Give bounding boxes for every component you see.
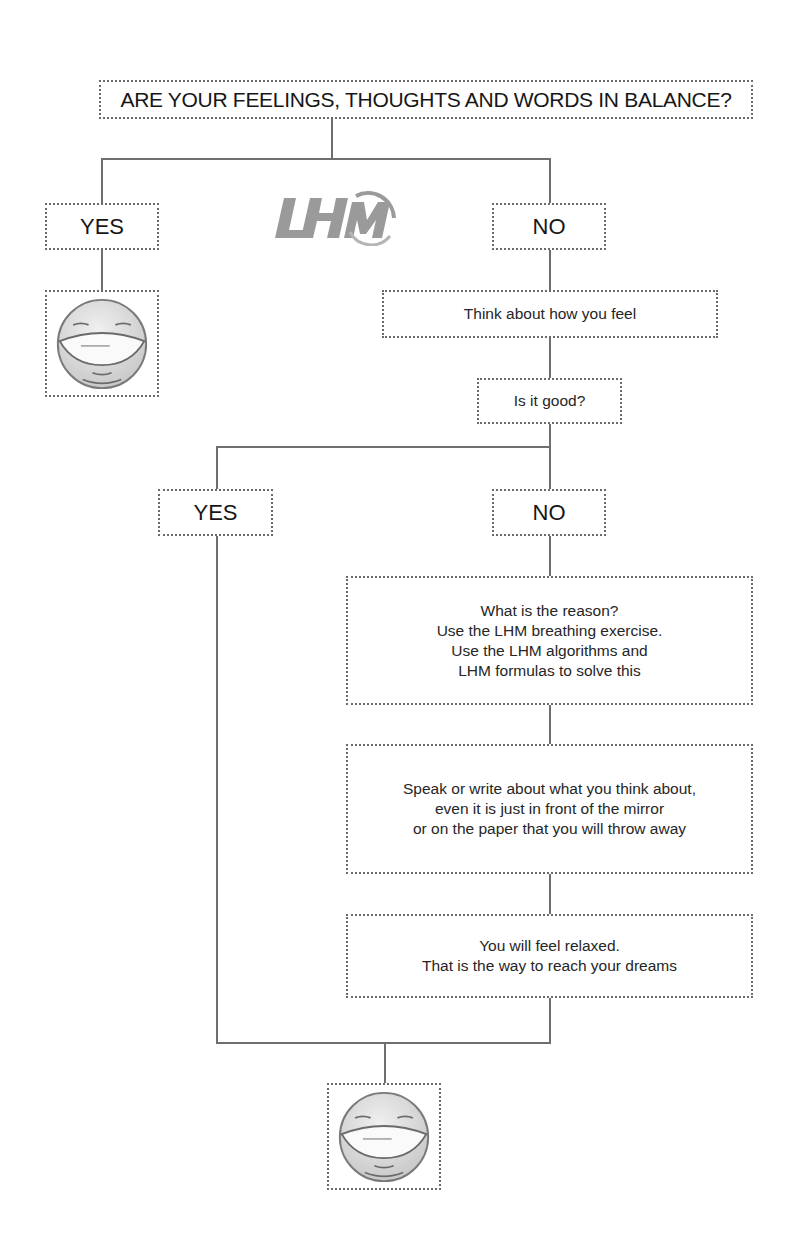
- connector-reason-to-speak: [549, 705, 551, 744]
- reason-line-2: Use the LHM breathing exercise.: [437, 621, 663, 641]
- lhm-logo: [270, 188, 400, 246]
- speak-line-2: even it is just in front of the mirror: [435, 799, 664, 819]
- connector-speak-to-relaxed: [549, 874, 551, 914]
- connector-yes2-down: [216, 536, 218, 1042]
- yes-box-2: YES: [158, 489, 273, 536]
- connector-branch1-horizontal: [101, 158, 550, 160]
- laughing-face-icon: [54, 296, 150, 392]
- connector-think-to-question: [549, 338, 551, 378]
- reason-line-3: Use the LHM algorithms and: [451, 641, 647, 661]
- relaxed-line-1: You will feel relaxed.: [479, 936, 620, 956]
- result-face-box-1: [45, 290, 159, 397]
- connector-relaxed-down: [549, 998, 551, 1042]
- result-face-box-final: [327, 1083, 441, 1190]
- connector-to-yes2: [216, 446, 218, 489]
- connector-yes1-to-face: [101, 250, 103, 290]
- connector-no1-to-think: [549, 250, 551, 290]
- no-box-1: NO: [492, 203, 606, 250]
- think-box: Think about how you feel: [382, 290, 718, 338]
- reason-line-1: What is the reason?: [481, 601, 619, 621]
- question-box: Is it good?: [477, 378, 622, 424]
- connector-branch2-horizontal: [216, 446, 550, 448]
- no-label-1: NO: [533, 214, 566, 240]
- title-text: ARE YOUR FEELINGS, THOUGHTS AND WORDS IN…: [120, 88, 731, 112]
- connector-to-yes1: [101, 158, 103, 203]
- lhm-logo-icon: [270, 188, 400, 246]
- laughing-face-icon: [336, 1089, 432, 1185]
- no-box-2: NO: [492, 489, 606, 536]
- no-label-2: NO: [533, 500, 566, 526]
- connector-to-no1: [549, 158, 551, 203]
- question-text: Is it good?: [514, 391, 586, 411]
- reason-line-4: LHM formulas to solve this: [458, 661, 641, 681]
- speak-line-3: or on the paper that you will throw away: [413, 819, 686, 839]
- yes-label-2: YES: [193, 500, 237, 526]
- yes-label-1: YES: [80, 214, 124, 240]
- yes-box-1: YES: [45, 203, 159, 250]
- reason-box: What is the reason? Use the LHM breathin…: [346, 576, 753, 705]
- connector-question-down: [549, 424, 551, 489]
- connector-no2-to-reason: [549, 536, 551, 576]
- speak-box: Speak or write about what you think abou…: [346, 744, 753, 874]
- connector-title-down: [331, 119, 333, 158]
- relaxed-line-2: That is the way to reach your dreams: [422, 956, 677, 976]
- speak-line-1: Speak or write about what you think abou…: [403, 779, 696, 799]
- relaxed-box: You will feel relaxed. That is the way t…: [346, 914, 753, 998]
- think-text: Think about how you feel: [464, 304, 636, 324]
- connector-join-to-face: [384, 1042, 386, 1083]
- title-box: ARE YOUR FEELINGS, THOUGHTS AND WORDS IN…: [99, 80, 753, 119]
